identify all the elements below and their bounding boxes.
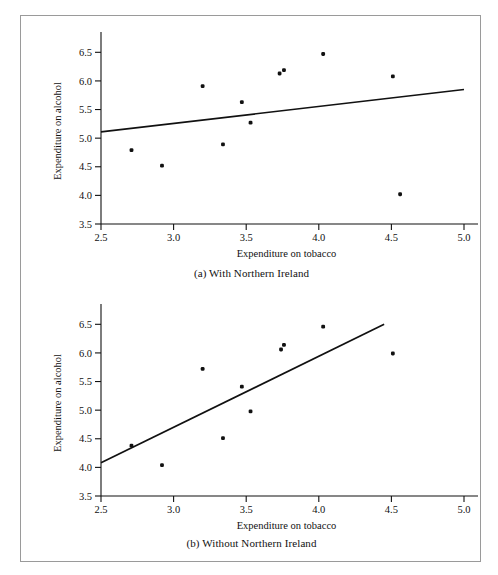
- x-tick-label: 4.0: [312, 232, 325, 243]
- data-point: [221, 436, 225, 440]
- data-point: [321, 325, 325, 329]
- x-tick-label: 3.5: [240, 504, 253, 515]
- y-tick-label: 5.5: [79, 376, 92, 387]
- figure-border: 3.54.04.55.05.56.06.52.53.03.54.04.55.0E…: [20, 15, 481, 562]
- x-tick-label: 5.0: [457, 232, 470, 243]
- x-tick-label: 4.0: [312, 504, 325, 515]
- data-point: [249, 409, 253, 413]
- regression-line: [101, 324, 384, 462]
- x-tick-label: 5.0: [457, 504, 470, 515]
- data-point: [278, 72, 282, 76]
- data-point: [160, 463, 164, 467]
- y-tick-label: 4.0: [79, 462, 92, 473]
- data-point: [321, 52, 325, 56]
- y-tick-label: 5.5: [79, 104, 92, 115]
- y-axis-title: Expenditure on alcohol: [52, 82, 63, 180]
- x-tick-label: 3.0: [167, 504, 180, 515]
- y-axis-title: Expenditure on alcohol: [52, 354, 63, 452]
- data-point: [279, 348, 283, 352]
- x-tick-label: 3.0: [167, 232, 180, 243]
- panel-a-caption: (a) With Northern Ireland: [21, 267, 482, 279]
- data-point: [240, 100, 244, 104]
- y-tick-label: 5.0: [79, 405, 92, 416]
- x-axis-title: Expenditure on tobacco: [237, 520, 337, 531]
- y-tick-label: 4.5: [79, 433, 92, 444]
- y-tick-label: 5.0: [79, 133, 92, 144]
- regression-line: [101, 90, 464, 132]
- data-point: [201, 367, 205, 371]
- data-point: [240, 385, 244, 389]
- y-tick-label: 6.5: [79, 319, 92, 330]
- data-point: [130, 444, 134, 448]
- x-axis-title: Expenditure on tobacco: [237, 248, 337, 259]
- scatter-panel-without-northern-ireland: 3.54.04.55.05.56.06.52.53.03.54.04.55.0E…: [21, 292, 482, 560]
- data-point: [130, 148, 134, 152]
- x-tick-label: 4.5: [385, 504, 398, 515]
- scatter-plot-b: 3.54.04.55.05.56.06.52.53.03.54.04.55.0E…: [21, 292, 482, 535]
- y-tick-label: 6.0: [79, 76, 92, 87]
- x-tick-label: 3.5: [240, 232, 253, 243]
- data-point: [160, 164, 164, 168]
- data-point: [282, 343, 286, 347]
- data-point: [391, 352, 395, 356]
- scatter-plot-a: 3.54.04.55.05.56.06.52.53.03.54.04.55.0E…: [21, 20, 482, 265]
- data-point: [201, 84, 205, 88]
- y-tick-label: 6.0: [79, 348, 92, 359]
- data-point: [391, 74, 395, 78]
- y-tick-label: 4.5: [79, 161, 92, 172]
- y-tick-label: 4.0: [79, 190, 92, 201]
- y-tick-label: 3.5: [79, 491, 92, 502]
- x-tick-label: 4.5: [385, 232, 398, 243]
- y-tick-label: 6.5: [79, 47, 92, 58]
- x-tick-label: 2.5: [94, 232, 107, 243]
- data-point: [282, 68, 286, 72]
- panel-b-caption: (b) Without Northern Ireland: [21, 537, 482, 549]
- y-tick-label: 3.5: [79, 219, 92, 230]
- x-tick-label: 2.5: [94, 504, 107, 515]
- data-point: [249, 121, 253, 125]
- scatter-panel-with-northern-ireland: 3.54.04.55.05.56.06.52.53.03.54.04.55.0E…: [21, 20, 482, 290]
- data-point: [221, 143, 225, 147]
- data-point: [398, 192, 402, 196]
